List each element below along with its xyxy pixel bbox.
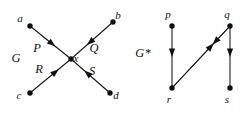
vertex-label-r: r bbox=[167, 93, 172, 105]
graph-label-G: G bbox=[11, 51, 20, 65]
edge-label-S: S bbox=[89, 64, 96, 78]
vertex-label-c: c bbox=[17, 89, 22, 101]
vertex-label-b: b bbox=[115, 9, 121, 21]
vertex-label-q: q bbox=[224, 8, 230, 20]
vertex-G-star-p bbox=[169, 23, 174, 28]
edge-label-P: P bbox=[32, 41, 41, 55]
vertex-G-star-q bbox=[227, 23, 232, 28]
arrowhead-G-P bbox=[47, 39, 56, 47]
graph-label-G-star: G* bbox=[135, 46, 151, 60]
edge-label-R: R bbox=[34, 62, 43, 76]
vertex-label-p: p bbox=[164, 8, 171, 20]
graph-figure-svg: abcdxPQRSGpqrsG* bbox=[0, 0, 251, 114]
vertex-G-star-r bbox=[169, 85, 174, 90]
arrowhead-G-star-qs bbox=[227, 49, 233, 58]
edge-label-Q: Q bbox=[89, 41, 98, 55]
edge-G-star-rq bbox=[172, 26, 230, 88]
vertex-label-d: d bbox=[113, 89, 119, 101]
vertex-G-c bbox=[27, 90, 32, 95]
vertex-G-a bbox=[27, 23, 32, 28]
vertex-label-x: x bbox=[73, 52, 79, 64]
vertex-G-d bbox=[107, 90, 112, 95]
arrowhead-G-star-pr bbox=[169, 49, 175, 58]
vertex-label-s: s bbox=[225, 93, 229, 105]
figure-container: abcdxPQRSGpqrsG* bbox=[0, 0, 251, 114]
vertex-label-a: a bbox=[17, 12, 23, 24]
vertex-G-star-s bbox=[227, 85, 232, 90]
